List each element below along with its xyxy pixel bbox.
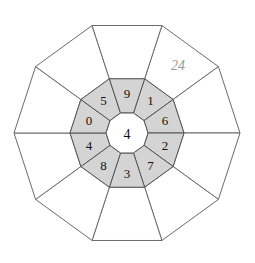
inner-cell-label-7: 0 (86, 113, 93, 128)
inner-cell-label-8: 5 (100, 93, 107, 108)
annotation-24: 24 (171, 58, 185, 73)
inner-cell-label-5: 8 (100, 158, 107, 173)
diagram-canvas: 16273840594 24 (0, 0, 255, 263)
inner-cell-label-0: 1 (147, 93, 154, 108)
inner-cell-label-2: 2 (162, 138, 169, 153)
inner-cell-label-9: 9 (124, 86, 131, 101)
inner-cell-label-4: 3 (124, 166, 131, 181)
core-label: 4 (124, 127, 131, 142)
inner-cell-label-3: 7 (147, 158, 154, 173)
inner-cell-label-6: 4 (86, 138, 93, 153)
rosette-figure: 16273840594 24 (0, 0, 255, 263)
inner-cell-label-1: 6 (162, 113, 169, 128)
